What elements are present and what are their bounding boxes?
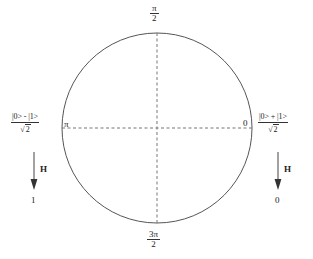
left-state-numerator: |0> - |1> <box>11 112 39 123</box>
left-output-label: 1 <box>31 196 36 205</box>
fraction-denominator: 2 <box>150 14 159 23</box>
sqrt-symbol-wrap: √2 <box>267 124 278 134</box>
right-state-denominator: √2 <box>258 123 288 134</box>
diagram-canvas: π 2 3π 2 π 0 |0> - |1> √2 |0> + |1> √2 H <box>0 0 313 259</box>
right-gate-label: H <box>284 165 291 174</box>
right-hadamard-arrow-head <box>275 179 282 190</box>
left-hadamard-arrow-head <box>31 179 38 190</box>
angle-label-top: π 2 <box>150 4 159 24</box>
sqrt-radicand: 2 <box>273 124 279 134</box>
angle-label-right: 0 <box>243 119 248 128</box>
left-state-fraction: |0> - |1> √2 <box>11 112 39 134</box>
fraction-3pi-over-2: 3π 2 <box>147 230 160 250</box>
angle-label-left: π <box>64 120 69 129</box>
right-state-label: |0> + |1> √2 <box>258 112 288 135</box>
right-output-label: 0 <box>275 196 280 205</box>
left-state-denominator: √2 <box>11 123 39 134</box>
fraction-denominator: 2 <box>147 240 160 249</box>
right-state-fraction: |0> + |1> √2 <box>258 112 288 134</box>
sqrt-symbol-wrap: √2 <box>19 124 30 134</box>
sqrt-radicand: 2 <box>25 124 31 134</box>
left-state-label: |0> - |1> √2 <box>11 112 39 135</box>
left-gate-label: H <box>40 165 47 174</box>
angle-label-bottom: 3π 2 <box>147 230 160 250</box>
fraction-pi-over-2: π 2 <box>150 4 159 24</box>
right-state-numerator: |0> + |1> <box>258 112 288 123</box>
